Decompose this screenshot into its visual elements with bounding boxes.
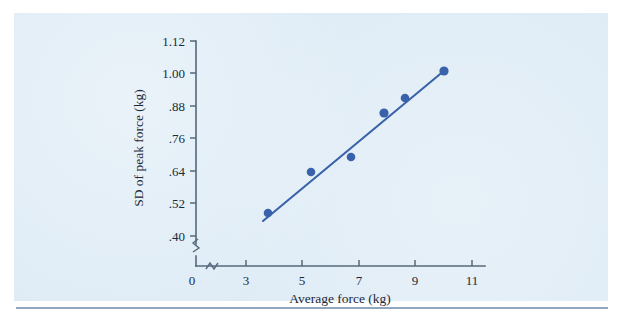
- y-tick-label-0.52: .52: [169, 196, 185, 211]
- x-tick-label-3: 3: [243, 273, 250, 288]
- y-tick-label-0.88: .88: [169, 99, 185, 114]
- y-tick-label-1.12: 1.12: [162, 34, 185, 49]
- trend-line: [263, 70, 445, 221]
- x-tick-label-5: 5: [299, 273, 306, 288]
- data-point: [379, 108, 388, 117]
- y-axis-title: SD of peak force (kg): [131, 89, 146, 207]
- y-tick-label-0.64: .64: [169, 164, 186, 179]
- data-point: [401, 94, 410, 103]
- y-tick-label-0.76: .76: [169, 131, 186, 146]
- scatter-plot: 1.12 1.00 .88 .76 .64 .52 .40 0 3 5 7 9 …: [0, 0, 625, 322]
- x-tick-label-11: 11: [466, 273, 479, 288]
- y-axis-break-icon: [193, 239, 199, 252]
- data-point: [439, 66, 448, 75]
- data-point: [347, 153, 356, 162]
- y-tick-label-0.40: .40: [169, 229, 185, 244]
- x-axis-title: Average force (kg): [289, 291, 391, 306]
- figure-root: 1.12 1.00 .88 .76 .64 .52 .40 0 3 5 7 9 …: [0, 0, 625, 322]
- data-point: [264, 209, 273, 218]
- x-tick-label-0: 0: [189, 273, 196, 288]
- data-point: [307, 168, 316, 177]
- x-axis-break-icon: [206, 263, 218, 269]
- x-tick-label-7: 7: [356, 273, 363, 288]
- y-tick-label-1.00: 1.00: [162, 66, 185, 81]
- x-tick-label-9: 9: [412, 273, 419, 288]
